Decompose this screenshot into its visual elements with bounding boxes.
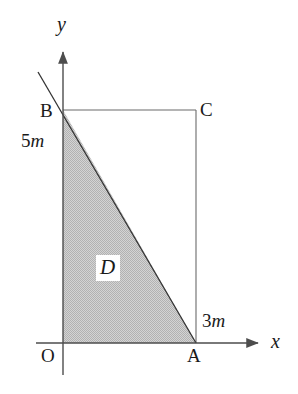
measurement-height-value: 5	[21, 130, 31, 151]
geometry-figure: y x B C A O 5m 3m D	[0, 0, 298, 394]
x-axis-label: x	[271, 331, 280, 351]
measurement-height: 5m	[21, 131, 44, 150]
y-axis-label: y	[57, 14, 66, 34]
measurement-base-unit: m	[212, 310, 226, 331]
vertex-label-c: C	[200, 100, 213, 119]
region-label-d: D	[96, 255, 120, 281]
measurement-height-unit: m	[31, 130, 45, 151]
vertex-label-b: B	[40, 101, 53, 120]
vertex-label-a: A	[187, 346, 201, 365]
origin-label-o: O	[41, 346, 55, 365]
measurement-base: 3m	[202, 311, 225, 330]
figure-canvas	[0, 0, 298, 394]
measurement-base-value: 3	[202, 310, 212, 331]
